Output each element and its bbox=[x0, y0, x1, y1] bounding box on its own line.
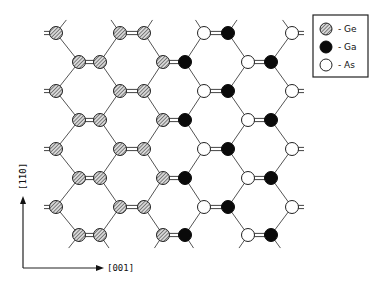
as-atom-icon bbox=[242, 172, 255, 185]
ga-atom-icon bbox=[179, 229, 192, 242]
ge-atom-icon bbox=[114, 85, 127, 98]
ge-atom-icon bbox=[94, 229, 107, 242]
ga-atom-icon bbox=[265, 229, 278, 242]
legend-ga-label: - Ga bbox=[338, 42, 357, 52]
ge-atom-icon bbox=[114, 201, 127, 214]
as-atom-icon bbox=[198, 27, 211, 40]
ge-atom-icon bbox=[94, 56, 107, 69]
as-atom-icon bbox=[242, 56, 255, 69]
as-atom-icon bbox=[198, 201, 211, 214]
ge-atom-icon bbox=[138, 85, 151, 98]
ga-atom-icon bbox=[179, 56, 192, 69]
ga-atom-icon bbox=[179, 172, 192, 185]
ga-atom-icon bbox=[179, 114, 192, 127]
ge-atom-icon bbox=[138, 201, 151, 214]
ga-atom-icon bbox=[222, 85, 235, 98]
ge-atom-icon bbox=[94, 172, 107, 185]
ge-atom-icon bbox=[50, 85, 63, 98]
ge-atom-icon bbox=[157, 114, 170, 127]
ga-atom-icon bbox=[265, 56, 278, 69]
as-atom-icon bbox=[198, 143, 211, 156]
ge-atom-icon bbox=[50, 201, 63, 214]
vertical-axis-label: [1̄1̄0] bbox=[18, 163, 28, 190]
as-atom-icon bbox=[242, 229, 255, 242]
as-atom-icon bbox=[286, 27, 299, 40]
legend-ga-icon bbox=[320, 41, 332, 53]
as-atom-icon bbox=[286, 85, 299, 98]
ge-atom-icon bbox=[157, 172, 170, 185]
ga-atom-icon bbox=[222, 143, 235, 156]
horizontal-arrowhead-icon bbox=[96, 265, 104, 271]
ge-atom-icon bbox=[114, 27, 127, 40]
ge-atom-icon bbox=[94, 114, 107, 127]
vertical-arrowhead-icon bbox=[20, 196, 26, 204]
as-atom-icon bbox=[286, 201, 299, 214]
ge-atom-icon bbox=[50, 27, 63, 40]
ge-atom-icon bbox=[50, 143, 63, 156]
as-atom-icon bbox=[242, 114, 255, 127]
ge-atom-icon bbox=[157, 229, 170, 242]
ge-atom-icon bbox=[114, 143, 127, 156]
lattice-diagram: - Ge - Ga - As [001] [1̄1̄0] bbox=[0, 0, 382, 284]
ga-atom-icon bbox=[222, 201, 235, 214]
ge-atom-icon bbox=[138, 27, 151, 40]
ga-atom-icon bbox=[222, 27, 235, 40]
lattice-bonds bbox=[44, 20, 304, 248]
as-atom-icon bbox=[198, 85, 211, 98]
ge-atom-icon bbox=[73, 56, 86, 69]
legend-as-icon bbox=[320, 59, 332, 71]
legend-ge-label: - Ge bbox=[338, 24, 357, 34]
as-atom-icon bbox=[286, 143, 299, 156]
ga-atom-icon bbox=[265, 172, 278, 185]
ge-atom-icon bbox=[73, 172, 86, 185]
legend: - Ge - Ga - As bbox=[313, 15, 368, 77]
ge-atom-icon bbox=[73, 229, 86, 242]
ge-atom-icon bbox=[73, 114, 86, 127]
ge-atom-icon bbox=[138, 143, 151, 156]
legend-ge-icon bbox=[320, 23, 332, 35]
ga-atom-icon bbox=[265, 114, 278, 127]
horizontal-axis-label: [001] bbox=[107, 263, 134, 273]
lattice-atoms bbox=[50, 27, 299, 242]
ge-atom-icon bbox=[157, 56, 170, 69]
legend-as-label: - As bbox=[338, 60, 355, 70]
